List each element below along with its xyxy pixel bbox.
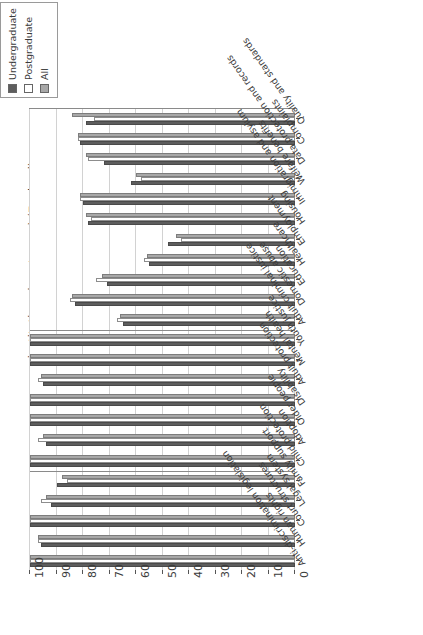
- bar-group: [30, 511, 295, 531]
- value-axis: 1009080706050403020100: [29, 570, 295, 616]
- bar-group: [30, 189, 295, 209]
- bar-group: [30, 290, 295, 310]
- bar: [57, 483, 296, 487]
- value-tick-label: 30: [219, 564, 232, 578]
- bar-group: [30, 330, 295, 350]
- legend-item[interactable]: All: [36, 7, 52, 93]
- value-tick: [162, 570, 163, 574]
- bar-group: [30, 410, 295, 430]
- section-divider: [30, 471, 295, 472]
- bar: [168, 242, 295, 246]
- value-tick: [215, 570, 216, 574]
- value-tick: [82, 570, 83, 574]
- legend: Undergraduate Postgraduate All: [0, 2, 58, 98]
- category-axis-labels: Quality and standardsComplaintsData prot…: [296, 108, 423, 635]
- bar-group: [30, 209, 295, 229]
- legend-label-postgraduate: Postgraduate: [23, 17, 34, 80]
- bar-group: [30, 169, 295, 189]
- bar: [43, 382, 295, 386]
- legend-label-undergraduate: Undergraduate: [7, 8, 18, 80]
- value-tick-label: 60: [139, 564, 152, 578]
- bar: [88, 221, 295, 225]
- bar: [30, 523, 295, 527]
- legend-item[interactable]: Undergraduate: [4, 7, 20, 93]
- legend-item[interactable]: Postgraduate: [20, 7, 36, 93]
- value-tick: [294, 570, 295, 574]
- value-tick-label: 70: [113, 564, 126, 578]
- bar-group: [30, 430, 295, 450]
- bar-group: [30, 270, 295, 290]
- value-tick-label: 50: [166, 564, 179, 578]
- legend-swatch-undergraduate: [8, 84, 17, 93]
- value-tick-label: 90: [60, 564, 73, 578]
- value-tick: [109, 570, 110, 574]
- value-tick: [188, 570, 189, 574]
- section-divider: [30, 330, 295, 331]
- value-tick-label: 100: [33, 557, 46, 578]
- value-tick: [241, 570, 242, 574]
- value-tick: [56, 570, 57, 574]
- bar: [75, 302, 295, 306]
- value-tick: [135, 570, 136, 574]
- legend-label-all: All: [39, 68, 50, 80]
- bar: [30, 362, 295, 366]
- value-tick-label: 40: [192, 564, 205, 578]
- legend-swatch-postgraduate: [24, 84, 33, 93]
- bar-group: [30, 350, 295, 370]
- value-tick: [29, 570, 30, 574]
- bar: [41, 543, 295, 547]
- bar: [46, 442, 295, 446]
- value-tick-label: 10: [272, 564, 285, 578]
- bar: [30, 342, 295, 346]
- bar: [30, 402, 295, 406]
- bar: [131, 181, 295, 185]
- chart-root: institutions in category) (England) Unde…: [0, 0, 423, 635]
- bar-group: [30, 531, 295, 551]
- legend-container: Undergraduate Postgraduate All: [0, 2, 58, 98]
- bar: [30, 422, 295, 426]
- value-tick: [268, 570, 269, 574]
- bar: [83, 201, 295, 205]
- bar-group: [30, 149, 295, 169]
- value-tick-label: 80: [86, 564, 99, 578]
- value-tick-label: 20: [245, 564, 258, 578]
- legend-swatch-all: [40, 84, 49, 93]
- bar-group: [30, 370, 295, 390]
